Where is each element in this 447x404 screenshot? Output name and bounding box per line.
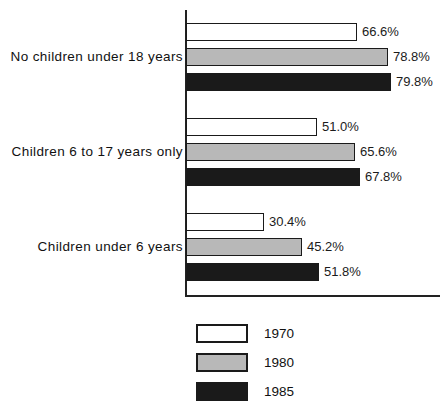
legend-swatch-1985 [196,382,248,401]
legend-label-1970: 1970 [264,324,294,343]
legend-label-1980: 1980 [264,353,294,372]
axis-horizontal-baseline [185,295,440,297]
bar-1970-group2 [186,213,264,231]
bar-1980-group1 [186,143,355,161]
bar-value-1970-group1: 51.0% [322,118,359,136]
bar-value-1980-group1: 65.6% [360,143,397,161]
bar-1970-group1 [186,118,317,136]
bar-value-1970-group0: 66.6% [362,23,399,41]
legend-swatch-1980 [196,353,248,372]
bar-chart: No children under 18 years Children 6 to… [0,0,447,404]
category-label-2: Children under 6 years [38,238,183,256]
bar-1985-group0 [186,73,391,91]
bar-1985-group1 [186,168,360,186]
bar-1985-group2 [186,263,319,281]
bar-value-1985-group2: 51.8% [324,263,361,281]
bar-value-1985-group0: 79.8% [396,73,433,91]
bar-value-1980-group0: 78.8% [393,48,430,66]
category-label-0: No children under 18 years [11,48,184,66]
bar-value-1980-group2: 45.2% [307,238,344,256]
bar-value-1985-group1: 67.8% [365,168,402,186]
legend-swatch-1970 [196,324,248,343]
bar-1980-group2 [186,238,302,256]
bar-1980-group0 [186,48,388,66]
category-label-1: Children 6 to 17 years only [12,143,183,161]
legend-label-1985: 1985 [264,382,294,401]
bar-value-1970-group2: 30.4% [269,213,306,231]
bar-1970-group0 [186,23,357,41]
